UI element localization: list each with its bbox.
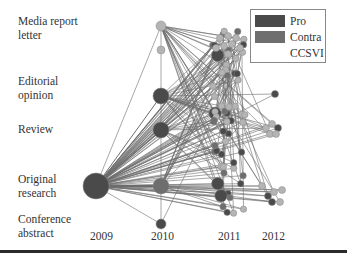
network-node [259, 183, 266, 190]
network-node [212, 177, 224, 189]
legend: Pro Contra CCSVI [250, 9, 326, 63]
y-label-editorial: Editorial opinion [18, 74, 58, 102]
network-node [224, 209, 230, 215]
network-node [232, 103, 238, 109]
network-node [235, 77, 241, 83]
x-label-2009: 2009 [90, 230, 113, 242]
network-node [220, 163, 226, 169]
network-node [211, 117, 217, 123]
network-node [277, 199, 284, 206]
network-node [237, 180, 243, 186]
network-node [153, 122, 169, 138]
network-node [242, 112, 248, 118]
network-node [225, 51, 232, 58]
network-node [157, 46, 165, 54]
network-node [222, 138, 228, 144]
network-node [221, 43, 228, 50]
legend-item-contra: Contra [255, 30, 321, 44]
y-label-conference-abstract: Conference abstract [18, 212, 71, 240]
legend-item-pro: Pro [255, 14, 306, 28]
network-node [215, 190, 227, 202]
network-node [233, 35, 240, 42]
legend-swatch-contra [255, 31, 285, 43]
network-node [269, 121, 276, 128]
network-node [153, 178, 169, 194]
y-label-review: Review [18, 122, 53, 136]
x-label-2011: 2011 [218, 230, 241, 242]
network-node [265, 193, 272, 200]
network-node [210, 83, 216, 89]
network-node [156, 219, 166, 229]
legend-swatch-pro [255, 15, 285, 27]
network-node [226, 104, 232, 110]
network-node [234, 71, 240, 77]
network-node [156, 21, 166, 31]
network-node [225, 33, 232, 40]
network-node [240, 206, 246, 212]
network-node [227, 194, 233, 200]
network-node [224, 119, 230, 125]
y-label-media-report: Media report letter [18, 14, 78, 42]
y-label-original-research: Original research [18, 172, 56, 200]
network-node [83, 173, 109, 199]
network-node [279, 187, 286, 194]
network-node [220, 128, 226, 134]
network-node [221, 170, 227, 176]
network-node [271, 189, 278, 196]
network-node [153, 88, 169, 104]
network-node [231, 159, 237, 165]
network-node [233, 55, 239, 61]
bottom-rule [0, 250, 347, 253]
network-node [220, 204, 226, 210]
network-node [237, 45, 244, 52]
network-node [240, 172, 246, 178]
network-node [273, 131, 280, 138]
network-node [235, 28, 241, 34]
network-node [272, 91, 279, 98]
legend-item-ccsvi: CCSVI [290, 46, 324, 60]
x-label-2012: 2012 [262, 230, 285, 242]
network-node [217, 35, 224, 42]
network-node [213, 45, 220, 52]
network-node [211, 93, 217, 99]
network-node [269, 199, 276, 206]
network-node [238, 149, 244, 155]
network-node [219, 69, 225, 75]
network-node [240, 119, 246, 125]
network-node [263, 125, 270, 132]
x-label-2010: 2010 [151, 230, 174, 242]
network-node [212, 142, 218, 148]
network-node [230, 210, 236, 216]
network-node [229, 41, 236, 48]
